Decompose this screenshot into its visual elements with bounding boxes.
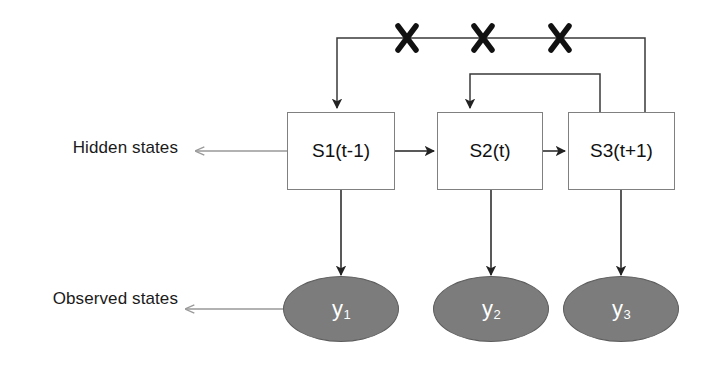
observed-state-sub-y1: 1 (343, 307, 350, 322)
hidden-state-box-s3[interactable]: S3(t+1) (568, 112, 675, 190)
observed-state-ellipse-y3[interactable]: y3 (563, 276, 679, 342)
observed-state-ellipse-y2[interactable]: y2 (433, 276, 549, 342)
observed-state-base-y3: y (612, 296, 623, 321)
observed-state-sub-y2: 2 (493, 307, 500, 322)
observed-state-base-y2: y (482, 296, 493, 321)
hidden-state-box-s1[interactable]: S1(t-1) (287, 112, 395, 190)
observed-state-base-y1: y (332, 296, 343, 321)
hidden-state-box-s2[interactable]: S2(t) (437, 112, 543, 190)
observed-state-label-y2: y2 (482, 298, 500, 320)
diagram-canvas: Hidden states Observed states S1(t-1) S2… (0, 0, 711, 369)
observed-states-row-label: Observed states (8, 289, 178, 309)
observed-state-sub-y3: 3 (623, 307, 630, 322)
hidden-state-label-s3: S3(t+1) (590, 140, 653, 162)
hidden-state-label-s1: S1(t-1) (312, 140, 370, 162)
feedback-transition-s3-to-s2 (470, 74, 600, 112)
observed-state-label-y1: y1 (332, 298, 350, 320)
hidden-states-row-label: Hidden states (18, 138, 178, 158)
observed-state-ellipse-y1[interactable]: y1 (283, 276, 399, 342)
observed-state-label-y3: y3 (612, 298, 630, 320)
hidden-state-label-s2: S2(t) (469, 140, 510, 162)
